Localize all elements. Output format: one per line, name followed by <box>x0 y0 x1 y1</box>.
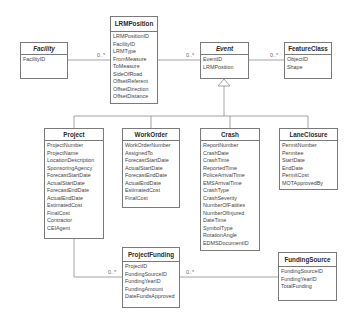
attribute: OffsetReferent <box>113 78 157 86</box>
attribute: ForecastEndDate <box>47 187 103 195</box>
class-featureclass-name: FeatureClass <box>285 43 331 55</box>
attribute: ForecastStartDate <box>47 172 103 180</box>
attribute: FinalCost <box>47 210 103 218</box>
attribute: Contractor <box>47 217 103 225</box>
class-laneclosure-attributes: PermitNumber Permitee StartDate EndDate … <box>280 141 337 187</box>
attribute: CEIAgent <box>47 225 103 233</box>
attribute: FacilityID <box>113 41 157 49</box>
attribute: RotationAngle <box>203 232 259 240</box>
class-facility[interactable]: Facility FacilityID <box>20 42 68 79</box>
attribute: ForecastEndDate <box>125 172 179 180</box>
attribute: CrashTime <box>203 157 259 165</box>
class-projectfunding[interactable]: ProjectFunding ProjectID FundingSourceID… <box>122 247 180 308</box>
attribute: NumberOfFatities <box>203 202 259 210</box>
attribute: CrashDate <box>203 150 259 158</box>
class-event[interactable]: Event EventID LRMPosition <box>200 42 249 79</box>
class-event-attributes: EventID LRMPosition <box>201 55 248 71</box>
class-workorder[interactable]: WorkOrder WorkOrderNumber AssignedTo For… <box>122 128 180 208</box>
attribute: CrashSeverity <box>203 195 259 203</box>
class-featureclass-attributes: ObjectID Shape <box>285 55 331 71</box>
class-fundingsource[interactable]: FundingSource FundingSourceID FundingYea… <box>278 252 337 301</box>
attribute: CrashType <box>203 187 259 195</box>
class-lrmposition-attributes: LRMPositionID FacilityID LRMType FromMea… <box>111 32 157 101</box>
attribute: FromMeasure <box>113 56 157 64</box>
attribute: StartDate <box>282 157 337 165</box>
attribute: ReportNumber <box>203 142 259 150</box>
attribute: FundingYearID <box>281 276 336 284</box>
class-crash[interactable]: Crash ReportNumber CrashDate CrashTime R… <box>200 128 260 251</box>
attribute: OffsetDirection <box>113 86 157 94</box>
class-project-attributes: ProjectNumber ProjectName LocationDescri… <box>45 141 103 232</box>
attribute: FundingYearID <box>125 278 179 286</box>
attribute: SymbolType <box>203 225 259 233</box>
attribute: ProjectNumber <box>47 142 103 150</box>
multiplicity-funding-source: 0..* <box>186 269 194 275</box>
class-projectfunding-attributes: ProjectID FundingSourceID FundingYearID … <box>123 262 179 301</box>
generalization-arrow-icon <box>218 79 230 86</box>
class-facility-name: Facility <box>21 43 67 55</box>
class-crash-attributes: ReportNumber CrashDate CrashTime Reporte… <box>201 141 259 247</box>
attribute: LRMPositionID <box>113 33 157 41</box>
attribute: TotalFunding <box>281 283 336 291</box>
attribute: FundingSourceID <box>281 268 336 276</box>
attribute: DateFundsApproved <box>125 293 179 301</box>
multiplicity-facility-lrm: 0..* <box>97 52 105 58</box>
attribute: SponsoringAgency <box>47 165 103 173</box>
attribute: EstimatedCost <box>47 202 103 210</box>
attribute: ActualStartDate <box>125 165 179 173</box>
attribute: PermitCost <box>282 172 337 180</box>
attribute: ProjectID <box>125 263 179 271</box>
attribute: EndDate <box>282 165 337 173</box>
attribute: MOTApprovedBy <box>282 180 337 188</box>
class-laneclosure-name: LaneClosure <box>280 129 337 141</box>
attribute: LRMType <box>113 48 157 56</box>
uml-class-diagram: Facility FacilityID LRMPosition LRMPosit… <box>0 0 360 317</box>
attribute: LocationDescription <box>47 157 103 165</box>
class-lrmposition-name: LRMPosition <box>111 17 157 32</box>
multiplicity-project-funding: 0..* <box>108 269 116 275</box>
attribute: ForecastStartDate <box>125 157 179 165</box>
attribute: DateTime <box>203 217 259 225</box>
attribute: WorkOrderNumber <box>125 142 179 150</box>
class-workorder-name: WorkOrder <box>123 129 179 141</box>
class-lrmposition[interactable]: LRMPosition LRMPositionID FacilityID LRM… <box>110 16 158 104</box>
attribute: Permitee <box>282 150 337 158</box>
attribute: ActualEndDate <box>47 195 103 203</box>
attribute: ActualEndDate <box>125 180 179 188</box>
attribute: Shape <box>287 64 331 72</box>
attribute: FinalCost <box>125 195 179 203</box>
attribute: EDMSDocumentID <box>203 240 259 248</box>
attribute: ProjectName <box>47 150 103 158</box>
attribute: SideOfRoad <box>113 71 157 79</box>
attribute: FundingAmount <box>125 286 179 294</box>
class-projectfunding-name: ProjectFunding <box>123 248 179 262</box>
attribute: EMSArrivalTime <box>203 180 259 188</box>
attribute: PermitNumber <box>282 142 337 150</box>
attribute: NumberOfInjured <box>203 210 259 218</box>
attribute: EstimatedCost <box>125 187 179 195</box>
attribute: OffsetDistance <box>113 93 157 101</box>
class-featureclass[interactable]: FeatureClass ObjectID Shape <box>284 42 332 79</box>
attribute: LRMPosition <box>203 64 248 72</box>
attribute: ReportedTime <box>203 165 259 173</box>
attribute: ActualStartDate <box>47 180 103 188</box>
multiplicity-lrm-event: 0..* <box>186 52 194 58</box>
class-project[interactable]: Project ProjectNumber ProjectName Locati… <box>44 128 104 239</box>
attribute: PoliceArrivalTime <box>203 172 259 180</box>
attribute: FacilityID <box>23 56 67 64</box>
multiplicity-event-feature: 0..* <box>270 52 278 58</box>
class-fundingsource-attributes: FundingSourceID FundingYearID TotalFundi… <box>279 267 336 291</box>
class-event-name: Event <box>201 43 248 55</box>
attribute: EventID <box>203 56 248 64</box>
class-laneclosure[interactable]: LaneClosure PermitNumber Permitee StartD… <box>279 128 338 190</box>
attribute: ObjectID <box>287 56 331 64</box>
attribute: AssignedTo <box>125 150 179 158</box>
class-crash-name: Crash <box>201 129 259 141</box>
class-fundingsource-name: FundingSource <box>279 253 336 267</box>
attribute: ToMeasure <box>113 63 157 71</box>
class-project-name: Project <box>45 129 103 141</box>
class-workorder-attributes: WorkOrderNumber AssignedTo ForecastStart… <box>123 141 179 202</box>
class-facility-attributes: FacilityID <box>21 55 67 64</box>
attribute: FundingSourceID <box>125 271 179 279</box>
